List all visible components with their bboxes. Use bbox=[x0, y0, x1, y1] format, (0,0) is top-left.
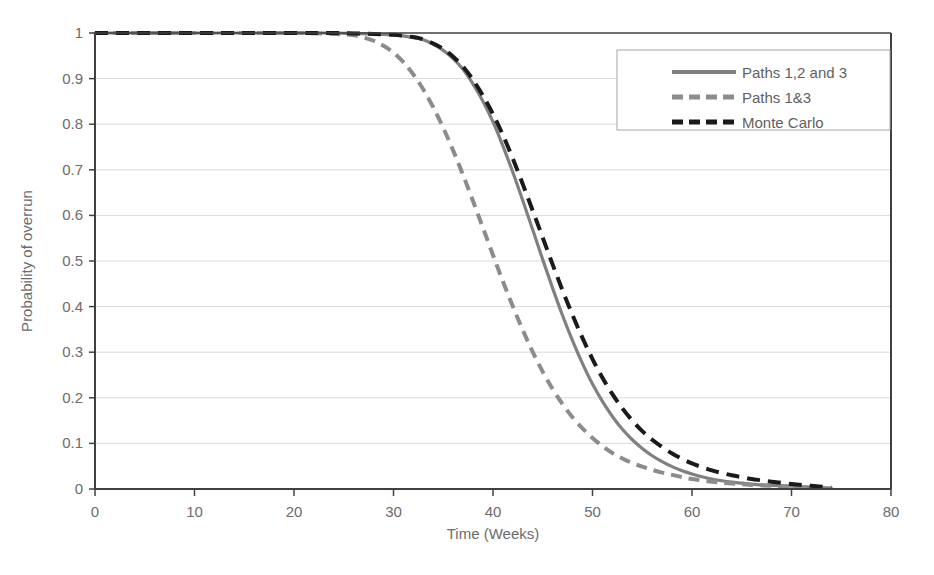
y-tick-label: 0.5 bbox=[62, 252, 83, 269]
x-tick-label: 20 bbox=[286, 503, 303, 520]
x-tick-label: 80 bbox=[883, 503, 900, 520]
x-tick-label: 0 bbox=[91, 503, 99, 520]
y-tick-label: 0.6 bbox=[62, 206, 83, 223]
x-tick-label: 70 bbox=[783, 503, 800, 520]
probability-of-overrun-chart: 00.10.20.30.40.50.60.70.80.91 0102030405… bbox=[0, 0, 934, 575]
x-tick-label: 60 bbox=[684, 503, 701, 520]
y-tick-label: 0.1 bbox=[62, 434, 83, 451]
x-tick-label: 10 bbox=[186, 503, 203, 520]
x-tick-label: 40 bbox=[485, 503, 502, 520]
x-tick-label: 30 bbox=[385, 503, 402, 520]
legend-label-1: Paths 1,2 and 3 bbox=[742, 64, 847, 81]
legend-label-3: Monte Carlo bbox=[742, 114, 824, 131]
y-tick-label: 0.9 bbox=[62, 70, 83, 87]
y-tick-label: 0.7 bbox=[62, 161, 83, 178]
y-tick-label: 0.8 bbox=[62, 115, 83, 132]
y-tick-label: 0.2 bbox=[62, 389, 83, 406]
x-axis-title: Time (Weeks) bbox=[447, 525, 540, 542]
y-tick-label: 0 bbox=[75, 480, 83, 497]
y-axis-title: Probability of overrun bbox=[18, 190, 35, 332]
legend: Paths 1,2 and 3Paths 1&3Monte Carlo bbox=[617, 50, 890, 131]
y-tick-label: 0.3 bbox=[62, 343, 83, 360]
chart-container: 00.10.20.30.40.50.60.70.80.91 0102030405… bbox=[0, 0, 934, 575]
y-tick-label: 0.4 bbox=[62, 298, 83, 315]
y-tick-label: 1 bbox=[75, 24, 83, 41]
x-tick-label: 50 bbox=[584, 503, 601, 520]
legend-label-2: Paths 1&3 bbox=[742, 89, 811, 106]
